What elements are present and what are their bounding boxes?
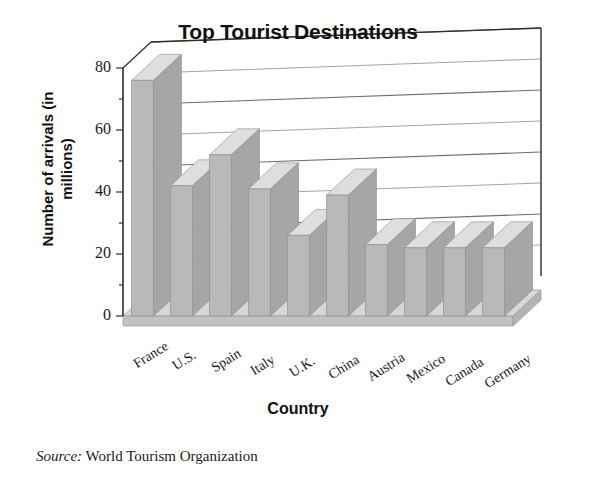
x-axis-title: Country	[0, 400, 596, 418]
chart-figure: Top Tourist Destinations Number of arriv…	[0, 0, 596, 495]
bar-front-face	[366, 245, 388, 316]
source-label: Source:	[36, 448, 82, 464]
bar-front-face	[483, 248, 505, 316]
bar-front-face	[327, 195, 349, 316]
axis-corner-riser	[123, 42, 151, 68]
y-tick-label: 40	[71, 182, 111, 200]
y-axis-title: Number of arrivals (in millions)	[38, 79, 76, 259]
y-tick-label: 20	[71, 244, 111, 262]
y-tick-label: 60	[71, 120, 111, 138]
bar-front-face	[210, 155, 232, 316]
y-tick-label: 0	[71, 306, 111, 324]
bar-front-face	[171, 186, 193, 316]
bar-front-face	[444, 248, 466, 316]
bar-front-face	[249, 189, 271, 316]
bar-front-face	[288, 235, 310, 316]
bar-front-face	[405, 248, 427, 316]
y-axis-title-text: Number of arrivals (in millions)	[39, 91, 75, 246]
chart-title: Top Tourist Destinations	[0, 20, 596, 44]
bar-front-face	[132, 80, 154, 316]
y-tick-label: 80	[71, 58, 111, 76]
source-text: World Tourism Organization	[86, 448, 258, 464]
source-note: Source: World Tourism Organization	[36, 448, 258, 465]
floor-front	[123, 316, 513, 326]
